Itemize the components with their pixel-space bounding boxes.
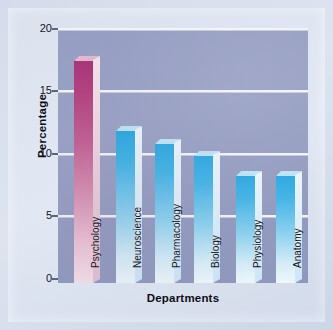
bar-anatomy[interactable]: Anatomy bbox=[276, 175, 296, 283]
y-tick-label-20: 20 bbox=[28, 22, 52, 34]
bar-label-psychology: Psychology bbox=[90, 217, 101, 268]
bar-label-pharmacology: Pharmacology bbox=[171, 204, 182, 268]
bar-label-physiology: Physiology bbox=[252, 220, 263, 268]
plot-area: Psychology Neuroscience Pharmacology B bbox=[58, 28, 308, 283]
bar-neuroscience[interactable]: Neuroscience bbox=[116, 130, 136, 283]
bar-biology[interactable]: Biology bbox=[194, 155, 214, 283]
gridline-20 bbox=[58, 28, 308, 30]
chart-figure: 20 15 10 5 0 Percentage Psychology bbox=[0, 0, 333, 330]
x-axis-title: Departments bbox=[58, 292, 308, 304]
bar-label-anatomy: Anatomy bbox=[292, 229, 303, 268]
bar-label-neuroscience: Neuroscience bbox=[132, 207, 143, 268]
bar-psychology[interactable]: Psychology bbox=[74, 60, 94, 283]
y-axis-title: Percentage bbox=[36, 94, 48, 158]
bar-pharmacology[interactable]: Pharmacology bbox=[155, 143, 175, 283]
bar-label-biology: Biology bbox=[210, 235, 221, 268]
y-tick-label-0: 0 bbox=[28, 272, 52, 284]
bar-physiology[interactable]: Physiology bbox=[236, 175, 256, 283]
y-tick-label-5: 5 bbox=[28, 209, 52, 221]
